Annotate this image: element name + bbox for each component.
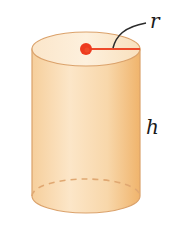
height-label: h: [146, 115, 159, 139]
cylinder-diagram: r h: [0, 0, 169, 229]
cylinder-body: [32, 49, 140, 213]
radius-label: r: [150, 9, 161, 33]
center-dot-highlight: [85, 48, 90, 53]
